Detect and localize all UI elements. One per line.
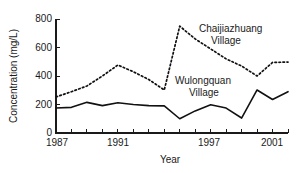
- series-label-chaijiazhuang-line1: Chaijiazhuang: [199, 23, 262, 34]
- series-label-chaijiazhuang-line2: Village: [211, 35, 241, 46]
- series-label-wulongquan-line1: Wulongquan: [175, 75, 231, 86]
- chart-figure: 800 600 400 200 0 1987 1991 1997 2001 Ye…: [0, 0, 296, 173]
- x-tick-label-2001: 2001: [261, 137, 284, 148]
- x-tick-label-1991: 1991: [107, 137, 130, 148]
- series-label-wulongquan-line2: Village: [189, 87, 219, 98]
- concentration-line-chart: 800 600 400 200 0 1987 1991 1997 2001 Ye…: [0, 0, 296, 173]
- y-tick-label-400: 400: [35, 70, 52, 81]
- x-tick-label-1997: 1997: [198, 137, 221, 148]
- y-tick-label-200: 200: [35, 99, 52, 110]
- x-axis-title: Year: [160, 154, 181, 165]
- y-tick-label-600: 600: [35, 42, 52, 53]
- y-tick-label-800: 800: [35, 13, 52, 24]
- y-axis-title: Concentration (mg/L): [8, 29, 19, 123]
- x-tick-label-1987: 1987: [46, 137, 69, 148]
